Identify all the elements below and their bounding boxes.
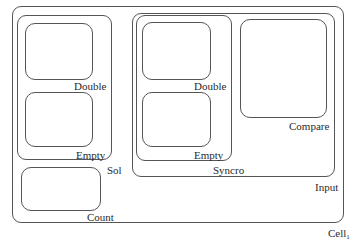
cell-label-text: Cell xyxy=(328,227,346,239)
sol-empty-label: Empty xyxy=(76,149,105,161)
count-box xyxy=(21,167,101,211)
compare-label: Compare xyxy=(289,120,329,132)
syncro-empty-label: Empty xyxy=(194,149,223,161)
input-label: Input xyxy=(315,181,338,193)
sol-empty-box xyxy=(25,92,93,147)
syncro-empty-box xyxy=(142,92,211,147)
syncro-double-label: Double xyxy=(194,80,226,92)
sol-double-label: Double xyxy=(74,80,106,92)
compare-box xyxy=(240,19,327,118)
count-label: Count xyxy=(87,211,114,223)
sol-label: Sol xyxy=(107,164,122,176)
sol-double-box xyxy=(25,23,93,80)
cell-label: Cell1 xyxy=(328,227,350,239)
cell-label-subscript: 1 xyxy=(346,233,350,241)
syncro-label: Syncro xyxy=(213,164,244,176)
syncro-double-box xyxy=(142,22,211,80)
